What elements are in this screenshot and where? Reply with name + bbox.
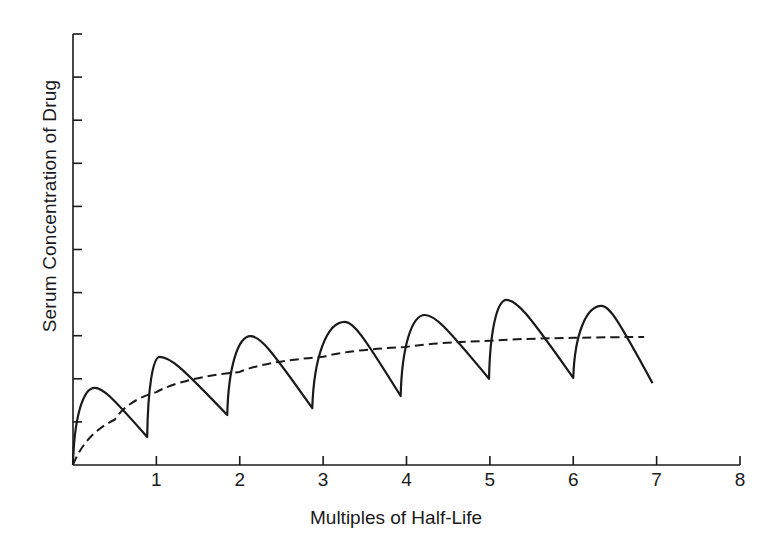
x-tick-label: 7 [651, 469, 662, 491]
x-tick-label: 5 [485, 469, 496, 491]
x-tick-label: 8 [735, 469, 746, 491]
y-axis-label: Serum Concentration of Drug [39, 80, 61, 333]
x-axis-label: Multiples of Half-Life [310, 507, 482, 529]
x-tick-label: 4 [401, 469, 412, 491]
x-tick-label: 2 [234, 469, 245, 491]
chart-plot-area [0, 0, 781, 551]
x-tick-label: 6 [568, 469, 579, 491]
axes [73, 34, 740, 465]
x-tick-label: 3 [318, 469, 329, 491]
x-tick-label: 1 [151, 469, 162, 491]
solid-concentration-curve [73, 300, 652, 465]
